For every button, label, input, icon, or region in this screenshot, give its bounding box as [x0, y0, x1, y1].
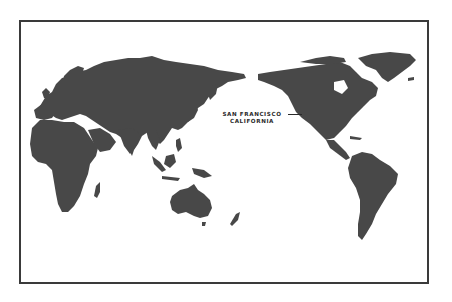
central-america	[326, 140, 350, 160]
label-line-city: SAN FRANCISCO	[212, 111, 292, 118]
san-francisco-label: SAN FRANCISCO CALIFORNIA	[212, 111, 292, 124]
greenland	[358, 52, 416, 82]
tasmania	[202, 222, 206, 226]
label-line-state: CALIFORNIA	[212, 118, 292, 125]
new-zealand	[230, 212, 240, 226]
africa	[30, 120, 98, 212]
indonesia-java	[162, 176, 180, 181]
new-guinea	[192, 168, 212, 178]
south-america	[348, 152, 398, 240]
arctic-archipelago	[300, 56, 346, 64]
indonesia-borneo	[164, 154, 176, 168]
philippines	[176, 138, 182, 152]
caribbean-islands	[350, 136, 362, 140]
san-francisco-leader-line	[288, 114, 302, 115]
india	[118, 128, 140, 154]
iceland	[408, 77, 414, 81]
world-map	[0, 0, 452, 302]
indonesia-sumatra	[152, 156, 166, 172]
madagascar	[94, 182, 100, 198]
north-america	[258, 62, 378, 140]
australia	[170, 184, 212, 218]
